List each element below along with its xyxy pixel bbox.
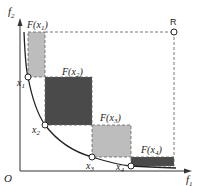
point-label-x2: x2 (31, 124, 40, 137)
region-f-x1 (28, 32, 45, 77)
reference-point-label: R (170, 17, 177, 27)
y-axis-label: f2 (8, 5, 15, 20)
point-x1 (25, 74, 31, 80)
region-label-x4: F(x4) (140, 144, 162, 157)
x-axis-label: f1 (186, 173, 193, 186)
point-x4 (128, 163, 134, 169)
point-label-x1: x1 (16, 77, 25, 90)
region-f-x4 (131, 157, 174, 166)
region-f-x2 (45, 77, 92, 125)
pareto-hypervolume-diagram: f2 f1 O R F(x1) F(x2) F(x3) F(x4) x1 x2 … (0, 0, 201, 186)
origin-label: O (4, 172, 12, 184)
region-label-x3: F(x3) (99, 112, 121, 125)
reference-point-r (171, 29, 177, 35)
point-x2 (42, 122, 48, 128)
point-label-x4: x4 (115, 161, 124, 174)
y-axis-arrow-icon (18, 18, 23, 26)
region-f-x3 (92, 125, 131, 157)
region-label-x1: F(x1) (26, 19, 48, 32)
